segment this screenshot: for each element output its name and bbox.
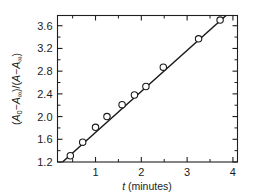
data-point (160, 64, 166, 70)
y-label-a-inf-1: A (10, 97, 22, 105)
data-point (143, 83, 149, 89)
data-point (92, 124, 98, 130)
x-axis-title: t (minutes) (122, 180, 172, 192)
x-tick-label: 1 (92, 166, 98, 178)
svg-text:t (minutes): t (minutes) (122, 180, 172, 192)
x-tick-label: 3 (184, 166, 190, 178)
x-axis-unit: (minutes) (128, 180, 172, 192)
y-tick-label: 1.6 (37, 133, 52, 145)
data-point (119, 101, 125, 107)
y-tick-label: 1.2 (37, 156, 52, 168)
data-point (131, 92, 137, 98)
y-label-close-paren-2: ) (10, 53, 22, 57)
y-tick-label: 3.2 (37, 42, 52, 54)
data-point (67, 153, 73, 159)
scatter-plot: 1.21.62.02.42.83.23.6 1234 t (minutes) (… (0, 0, 265, 196)
y-label-a: A (10, 75, 22, 83)
data-point (217, 17, 223, 23)
data-point (104, 113, 110, 119)
data-point (195, 36, 201, 42)
y-tick-label: 2.0 (37, 111, 52, 123)
x-tick-label: 4 (230, 166, 236, 178)
chart-figure: 1.21.62.02.42.83.23.6 1234 t (minutes) (… (0, 0, 265, 196)
data-point (79, 139, 85, 145)
y-tick-label: 2.8 (37, 65, 52, 77)
x-tick-label: 2 (138, 166, 144, 178)
y-label-a-inf-2: A (10, 62, 22, 70)
y-tick-label: 2.4 (37, 88, 52, 100)
y-tick-label: 3.6 (37, 20, 52, 32)
y-label-a-zero: A (10, 115, 22, 123)
